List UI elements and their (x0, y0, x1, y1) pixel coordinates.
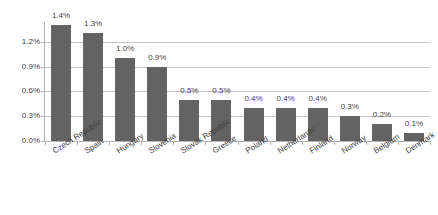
x-axis-tick-mark (77, 141, 78, 145)
x-axis-tick-mark (205, 141, 206, 145)
x-axis-tick-mark (238, 141, 239, 145)
x-axis-category-label: Greece (211, 134, 238, 156)
x-axis-tick-mark (141, 141, 142, 145)
bar-chart: 0.0%0.3%0.6%0.9%1.2% 1.4%1.3%1.0%0.9%0.5… (0, 0, 438, 215)
x-axis-tick-mark (270, 141, 271, 145)
x-axis-category-label: Finland (308, 134, 335, 156)
x-axis-tick-mark (334, 141, 335, 145)
x-axis-category-labels: Czech RepublicSpainHungarySloveniaSlovak… (0, 0, 438, 215)
x-axis-category-label: Spain (83, 137, 105, 156)
x-axis-tick-mark (45, 141, 46, 145)
x-axis-category-label: Poland (244, 134, 270, 155)
x-axis-category-label: Denmark (404, 130, 436, 155)
x-axis-tick-mark (302, 141, 303, 145)
x-axis-category-label: Belgium (372, 132, 401, 155)
x-axis-tick-mark (430, 141, 431, 145)
x-axis-category-label: Norway (340, 133, 368, 155)
x-axis-tick-mark (109, 141, 110, 145)
x-axis-tick-mark (366, 141, 367, 145)
x-axis-tick-mark (173, 141, 174, 145)
x-axis-tick-mark (398, 141, 399, 145)
